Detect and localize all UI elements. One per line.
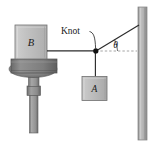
pedestal-neck xyxy=(29,77,40,87)
block-b: B xyxy=(15,25,47,59)
angle-label-theta: θ xyxy=(113,40,118,50)
knot-dot xyxy=(93,48,98,53)
diagram-canvas: B θ Knot A xyxy=(0,0,152,143)
wall-post xyxy=(138,7,147,140)
block-a-label: A xyxy=(91,84,98,94)
block-b-label: B xyxy=(28,37,35,48)
pedestal-shaft xyxy=(30,95,39,133)
physics-diagram-knot-tension: B θ Knot A xyxy=(0,0,152,143)
pedestal-slab xyxy=(11,59,57,73)
block-a: A xyxy=(82,77,107,101)
knot-label: Knot xyxy=(61,26,80,36)
pedestal-collar xyxy=(27,86,41,96)
